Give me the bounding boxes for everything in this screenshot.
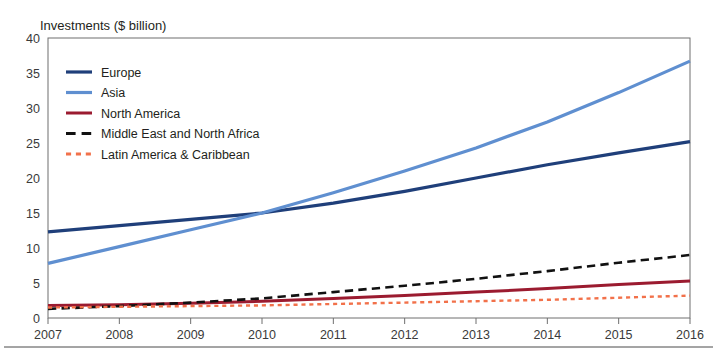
legend-label: Middle East and North Africa <box>101 127 259 141</box>
legend-item[interactable]: Europe <box>66 66 141 80</box>
legend-item[interactable]: Latin America & Caribbean <box>66 148 250 162</box>
x-tick-label: 2008 <box>105 328 133 342</box>
x-tick-label: 2012 <box>391 328 419 342</box>
x-tick-label: 2014 <box>533 328 561 342</box>
y-tick-label: 30 <box>26 102 40 116</box>
series-group <box>48 61 690 309</box>
series-line-asia <box>48 61 690 263</box>
legend-label: Asia <box>101 86 125 100</box>
legend-label: Europe <box>101 66 141 80</box>
y-tick-label: 40 <box>26 32 40 46</box>
x-tick-label: 2007 <box>34 328 62 342</box>
x-tick-label: 2010 <box>248 328 276 342</box>
y-tick-label: 25 <box>26 137 40 151</box>
y-tick-label: 5 <box>33 277 40 291</box>
series-line-north-america <box>48 281 690 306</box>
y-tick-label: 10 <box>26 242 40 256</box>
y-tick-label: 20 <box>26 172 40 186</box>
x-axis: 2007200820092010201120122013201420152016 <box>34 318 704 342</box>
x-tick-label: 2009 <box>177 328 205 342</box>
legend-label: North America <box>101 107 180 121</box>
legend-item[interactable]: Middle East and North Africa <box>66 127 259 141</box>
legend-item[interactable]: Asia <box>66 86 125 100</box>
investments-line-chart: Investments ($ billion)05101520253035402… <box>0 0 717 357</box>
legend: EuropeAsiaNorth AmericaMiddle East and N… <box>66 66 259 162</box>
x-tick-label: 2016 <box>676 328 704 342</box>
y-axis-title: Investments ($ billion) <box>40 18 166 33</box>
chart-canvas: Investments ($ billion)05101520253035402… <box>4 18 713 347</box>
legend-item[interactable]: North America <box>66 107 180 121</box>
x-tick-label: 2015 <box>605 328 633 342</box>
plot-frame <box>48 38 690 318</box>
y-tick-label: 0 <box>33 312 40 326</box>
y-tick-label: 15 <box>26 207 40 221</box>
x-tick-label: 2011 <box>320 328 347 342</box>
y-axis: 0510152025303540 <box>26 32 40 326</box>
x-tick-label: 2013 <box>462 328 490 342</box>
legend-label: Latin America & Caribbean <box>101 148 250 162</box>
y-tick-label: 35 <box>26 67 40 81</box>
series-line-middle-east-and-north-africa <box>48 255 690 309</box>
